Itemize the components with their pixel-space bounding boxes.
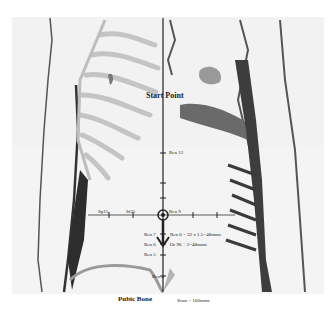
sp15-label: Sp15: [98, 209, 108, 214]
ren9-label: Ren 9: [169, 209, 181, 214]
ren4-label: Ren 4: [152, 274, 164, 279]
pubic-bone-label: Pubic Bone: [118, 296, 152, 303]
diagram-canvas: Start Point Ren 12 Sp15 St25 Ren 9 Ren 7…: [0, 0, 332, 323]
alt-formula-label: Or 96 ÷ 2=48mms: [170, 242, 207, 247]
ren5-label: Ren 5: [144, 252, 156, 257]
start-point-label: Start Point: [146, 92, 184, 100]
scun-label: Scun = 160mms: [177, 298, 210, 303]
anatomy-illustration: [0, 0, 332, 323]
ren7-label: Ren 7: [144, 232, 156, 237]
ren6-label: Ren 6: [144, 242, 156, 247]
ren12-label: Ren 12: [169, 150, 183, 155]
ren6-formula-label: Ren 6 = 32 x 1.5=48mms: [170, 232, 221, 237]
st25-label: St25: [126, 209, 135, 214]
